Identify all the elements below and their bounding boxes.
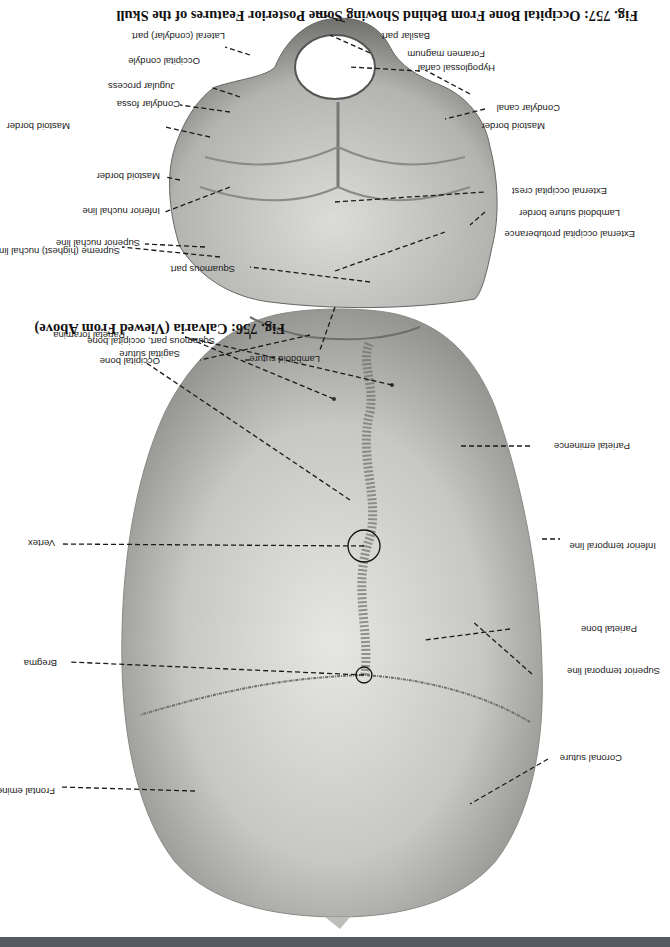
label-lambdoid-suture-border: Lambdoid suture border [519,208,620,219]
label-external-occipital-crest: External occipital crest [512,186,607,197]
label-parietal-bone: Parietal bone [581,624,637,635]
label-jugular-process: Jugular process [108,81,175,92]
label-frontal-eminence: Frontal eminence [0,786,55,797]
label-squamous-part-occipital-bone: Squamous part, occipital bone [87,336,215,347]
label-occipital-bone: Occipital bone [100,356,160,367]
label-squamous-part: Squamous part [171,264,235,275]
label-lateral-condylar-part: Lateral (condylar) part [132,31,225,42]
label-mastoid-border-right: Mastoid border [482,121,545,132]
label-mastoid-border-2: Mastoid border [7,121,70,132]
label-external-occipital-protuberance: External occipital protuberance [505,229,635,240]
label-lambdoid-suture: Lambdoid suture [249,354,320,365]
label-condylar-fossa: Condylar fossa [117,99,180,110]
label-foramen-magnum: Foramen magnum [407,49,485,60]
anatomy-page: Coronal suture Frontal eminence Superior… [0,0,670,947]
label-parietal-eminence: Parietal eminence [554,441,630,452]
label-inferior-temporal-line: Inferior temporal line [566,541,656,552]
figure-757-caption: Fig. 757: Occipital Bone From Behind Sho… [116,7,638,24]
calvaria-illustration [122,309,543,929]
label-superior-temporal-line: Superior temporal line [565,666,660,677]
label-vertex: Vertex [28,538,55,549]
figure-756-caption: Fig. 756: Calvaria (Viewed From Above) [35,320,286,337]
label-hypoglossal-canal: Hypoglossal canal [418,63,495,74]
skull-illustrations [0,0,670,947]
label-occipital-condyle: Occipital condyle [128,56,200,67]
label-condylar-canal: Condylar canal [497,103,560,114]
label-coronal-suture: Coronal suture [560,753,622,764]
label-basilar-part: Basilar part [382,31,430,42]
label-supreme-nuchal-line: Supreme (highest) nuchal line [0,246,120,257]
label-mastoid-border-left: Mastoid border [97,171,160,182]
label-inferior-nuchal-line: Inferior nuchal line [82,206,160,217]
label-bregma: Bregma [24,658,57,669]
